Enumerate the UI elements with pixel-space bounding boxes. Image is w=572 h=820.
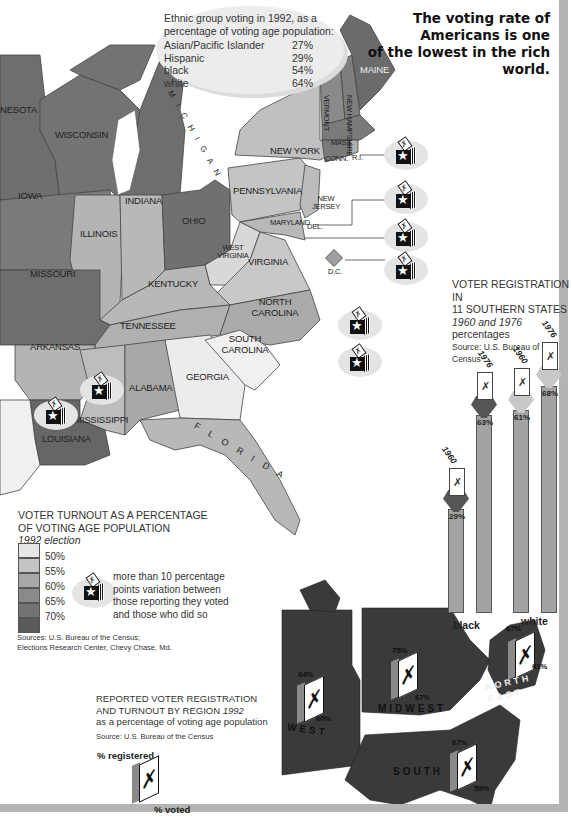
label-alabama: ALABAMA	[129, 382, 172, 393]
infographic: The voting rate of Americans is one of t…	[0, 0, 572, 820]
legend-swatch	[18, 573, 40, 588]
ballot-card-icon: ✗	[449, 468, 465, 496]
key-voted-label: % voted	[154, 804, 190, 815]
group-label: Hispanic	[164, 52, 292, 65]
label-new-hampshire: NEW HAMPSHIRE	[334, 95, 354, 157]
label-pennsylvania: PENNSYLVANIA	[233, 185, 302, 196]
northeast-registered: 67%	[506, 624, 521, 633]
bar-white-1976	[541, 386, 557, 613]
callout-intro-1: Ethnic group voting in 1992, as a	[164, 12, 344, 25]
frame-border-right	[559, 0, 568, 812]
label-illinois: ILLINOIS	[80, 228, 117, 239]
bar-black-1960	[448, 509, 464, 613]
legend-step-label: 50%	[45, 551, 65, 562]
bar-value: 29%	[449, 512, 465, 521]
label-west-virginia: WEST VIRGINIA	[213, 244, 253, 260]
ballot-box-icon: ✗	[342, 343, 376, 377]
legend-sources: Sources: U.S. Bureau of the Census; Elec…	[17, 633, 172, 653]
legend-title-2: OF VOTING AGE POPULATION	[18, 522, 238, 535]
frame-border-bottom	[0, 804, 568, 812]
ethnic-row: Asian/Pacific Islander27%	[164, 39, 344, 52]
ballot-box-legend-icon: ✗	[76, 572, 110, 606]
label-conn: CONN.	[325, 155, 348, 163]
region-title-2: AND TURNOUT BY REGION	[96, 705, 223, 716]
legend-swatch	[18, 618, 40, 633]
label-georgia: GEORGIA	[186, 371, 229, 382]
label-mass: MASS.	[331, 139, 353, 147]
midwest-registered: 75%	[392, 646, 407, 655]
northeast-voted: 61%	[532, 662, 547, 671]
group-value: 54%	[292, 64, 332, 77]
ballot-box-icon: ✗	[388, 251, 422, 285]
legend-title-1: VOTER TURNOUT AS A PERCENTAGE	[18, 509, 238, 522]
legend-swatch	[18, 543, 40, 558]
region-title-3: as a percentage of voting age population	[96, 716, 296, 728]
ballot-box-icon: ✗	[388, 218, 422, 252]
key-registered-label: % registered	[97, 750, 154, 761]
region-south-shape	[345, 705, 520, 810]
ballot-box-icon: ✗	[84, 371, 118, 405]
ballot-card-icon: ✗	[514, 368, 530, 396]
bar-white-1960	[513, 410, 529, 613]
label-louisiana: LOUISIANA	[42, 433, 91, 444]
label-maine: MAINE	[360, 64, 389, 75]
legend-subtitle: 1992 election	[18, 534, 238, 547]
label-ohio: OHIO	[182, 215, 205, 226]
dc-marker	[326, 250, 343, 267]
region-title-year: 1992	[223, 705, 244, 716]
label-kentucky: KENTUCKY	[148, 278, 198, 289]
legend-step-label: 55%	[45, 566, 65, 577]
ballot-box-icon: ✗	[38, 396, 72, 430]
region-title-1: REPORTED VOTER REGISTRATION	[96, 693, 296, 705]
label-ri: R.I.	[352, 154, 363, 162]
label-south-carolina: SOUTH CAROLINA	[215, 333, 275, 355]
label-arkansas: ARKANSAS	[30, 341, 80, 352]
legend-swatch	[18, 558, 40, 573]
chart-subtitle-years: 1960 and 1976	[452, 316, 522, 328]
label-missouri: MISSOURI	[30, 268, 75, 279]
ballot-legend-note: more than 10 percentage points variation…	[113, 571, 243, 621]
legend-step-label: 70%	[45, 611, 65, 622]
west-registered: 64%	[298, 670, 313, 679]
legend-step-label: 60%	[45, 581, 65, 592]
state-missouri	[0, 270, 110, 345]
label-virginia: VIRGINIA	[248, 256, 288, 267]
ballot-card-icon: ✗	[477, 372, 493, 400]
alaska-shape	[300, 580, 340, 612]
west-voted: 60%	[316, 714, 331, 723]
region-name-south: SOUTH	[393, 766, 443, 777]
bar-value: 61%	[514, 413, 530, 422]
label-mississippi: MISSISSIPPI	[74, 414, 128, 425]
label-delaware: DEL.	[307, 223, 323, 231]
ethnic-row: Hispanic29%	[164, 52, 344, 65]
region-panel-title: REPORTED VOTER REGISTRATION AND TURNOUT …	[96, 693, 296, 742]
region-name-midwest: MIDWEST	[378, 703, 446, 714]
chart-title-1: VOTER REGISTRATION IN	[452, 278, 572, 303]
group-label: white	[164, 77, 292, 90]
south-voted: 59%	[474, 784, 489, 793]
turnout-legend-title: VOTER TURNOUT AS A PERCENTAGE OF VOTING …	[18, 509, 238, 547]
group-label: black	[164, 64, 292, 77]
ethnic-voting-callout: Ethnic group voting in 1992, as a percen…	[164, 12, 344, 89]
region-source: Source: U.S. Bureau of the Census	[96, 731, 296, 743]
headline-line-1: The voting rate of Americans is one	[350, 10, 550, 44]
label-new-jersey: NEW JERSEY	[311, 195, 341, 211]
ballot-card-icon: ✗	[542, 342, 558, 370]
chart-title-2: 11 SOUTHERN STATES	[452, 303, 572, 316]
callout-intro-2: percentage of voting age population:	[164, 25, 344, 38]
label-vermont: VERMONT	[322, 95, 331, 131]
label-north-carolina: NORTH CAROLINA	[245, 296, 305, 318]
ethnic-row: black54%	[164, 64, 344, 77]
ethnic-row: white64%	[164, 77, 344, 90]
legend-swatch	[18, 603, 40, 618]
group-label-white: white	[521, 615, 548, 627]
group-value: 64%	[292, 77, 332, 90]
legend-swatch	[18, 588, 40, 603]
midwest-voted: 67%	[415, 693, 430, 702]
ballot-box-icon: ✗	[388, 136, 422, 170]
label-iowa: IOWA	[18, 190, 42, 201]
bar-black-1976	[476, 415, 492, 613]
sources-line-2: Elections Research Center, Chevy Chase, …	[17, 643, 172, 653]
group-label: Asian/Pacific Islander	[164, 39, 292, 52]
south-registered: 67%	[452, 738, 467, 747]
